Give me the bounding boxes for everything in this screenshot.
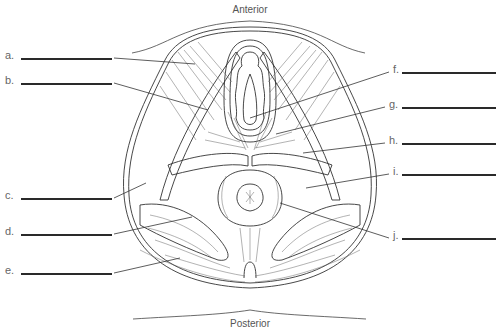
answer-blank-b[interactable] xyxy=(21,83,112,85)
answer-blank-h[interactable] xyxy=(402,143,496,145)
vaginal-orifice xyxy=(243,74,257,125)
pointer-c xyxy=(114,183,146,198)
answer-blank-d[interactable] xyxy=(21,234,112,236)
left-band-muscle xyxy=(160,52,240,200)
anal-opening-mark xyxy=(246,190,254,204)
left-levator-ani xyxy=(140,204,228,260)
label-d: d. xyxy=(5,225,14,237)
pointer-e xyxy=(114,258,180,273)
pointer-b xyxy=(114,83,208,110)
answer-blank-e[interactable] xyxy=(21,273,112,275)
answer-blank-i[interactable] xyxy=(402,174,496,176)
label-g: g. xyxy=(389,98,398,110)
right-band-muscle xyxy=(260,52,340,200)
pelvic-floor-illustration xyxy=(0,0,498,332)
perineum-diagram: Anterior Posterior a.b.c.d.e.f.g.h.i.j. xyxy=(0,0,498,332)
answer-blank-c[interactable] xyxy=(21,198,112,200)
right-levator-ani xyxy=(272,204,360,260)
anterior-skin-contour xyxy=(132,21,365,53)
answer-blank-g[interactable] xyxy=(402,107,496,109)
pointer-j xyxy=(280,203,389,238)
label-b: b. xyxy=(5,74,14,86)
label-a: a. xyxy=(5,49,14,61)
answer-blank-j[interactable] xyxy=(402,238,496,240)
pointer-a xyxy=(114,58,195,64)
answer-blank-f[interactable] xyxy=(402,72,496,74)
label-c: c. xyxy=(5,189,14,201)
label-e: e. xyxy=(5,264,14,276)
bulb-outer xyxy=(224,40,276,142)
answer-blank-a[interactable] xyxy=(21,58,112,60)
anterior-label: Anterior xyxy=(232,4,267,15)
label-f: f. xyxy=(393,63,399,75)
label-h: h. xyxy=(389,134,398,146)
label-i: i. xyxy=(393,165,399,177)
coccyx xyxy=(244,262,256,278)
posterior-label: Posterior xyxy=(230,318,270,329)
vestibule xyxy=(235,52,264,130)
label-j: j. xyxy=(393,229,399,241)
